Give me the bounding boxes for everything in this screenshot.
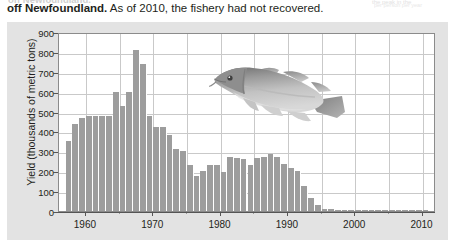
x-axis-tick-label: 1970 [132, 219, 172, 230]
bar [93, 116, 100, 211]
x-axis-tick-label: 1990 [267, 219, 307, 230]
bar [227, 157, 234, 211]
plot-area [58, 33, 435, 212]
bar [221, 172, 228, 211]
bar [295, 171, 302, 211]
bar [254, 158, 261, 211]
y-axis-tick-label: 800 [20, 47, 54, 58]
bar [180, 151, 187, 211]
bar [335, 210, 342, 211]
bar [72, 124, 79, 212]
bar [362, 210, 369, 211]
bar [214, 165, 221, 211]
bar [66, 141, 73, 211]
bar [133, 50, 140, 211]
bar [79, 118, 86, 211]
bar [140, 64, 147, 211]
bar [369, 210, 376, 211]
bar [281, 164, 288, 211]
x-axis-labels: 196019701980199020002010 [7, 212, 448, 240]
x-axis-tick-label: 2000 [334, 219, 374, 230]
bar [187, 165, 194, 211]
y-axis-tick-label: 600 [20, 87, 54, 98]
bar [322, 209, 329, 211]
bar [288, 168, 295, 211]
y-axis-tick-label: 300 [20, 147, 54, 158]
bar [248, 165, 255, 211]
bar [106, 116, 113, 211]
y-axis-tick-label: 500 [20, 107, 54, 118]
bar [402, 210, 409, 211]
bar [113, 92, 120, 211]
bar [167, 135, 174, 211]
bar [274, 157, 281, 211]
bar [308, 198, 315, 211]
x-axis-tick-label: 1960 [65, 219, 105, 230]
bar [234, 158, 241, 211]
bar [268, 154, 275, 211]
bar [99, 116, 106, 211]
bar [348, 210, 355, 211]
gridline-horizontal [59, 54, 434, 55]
gridline-vertical [389, 34, 390, 211]
bar [200, 171, 207, 211]
x-axis-line [58, 212, 435, 213]
caption-rest: As of 2010, the fishery had not recovere… [107, 2, 323, 14]
bar [126, 92, 133, 211]
bar [355, 210, 362, 211]
bar [173, 149, 180, 211]
y-axis-tick-label: 100 [20, 187, 54, 198]
bar [194, 176, 201, 211]
gridline-vertical [355, 34, 356, 211]
bar [120, 106, 127, 211]
y-axis-tick-label: 200 [20, 167, 54, 178]
bar [375, 210, 382, 211]
bar [241, 159, 248, 211]
bar [86, 116, 93, 211]
y-axis-tick-label: 700 [20, 67, 54, 78]
bar [423, 210, 430, 211]
y-axis-labels: 9008007006005004003002001000 [14, 22, 54, 240]
bar [342, 210, 349, 211]
chart-figure: Yield (thousands of metric tons) 9008007… [7, 22, 448, 240]
bar [207, 165, 214, 211]
bar [261, 157, 268, 211]
y-axis-tick-label: 900 [20, 28, 54, 39]
y-axis-tick-label: 400 [20, 127, 54, 138]
bar [315, 205, 322, 211]
figure-caption: off Newfoundland. As of 2010, the fisher… [7, 2, 377, 18]
bar [160, 127, 167, 211]
bar [328, 209, 335, 211]
bar [409, 210, 416, 211]
bar [153, 127, 160, 211]
atlantic-cod-fish-icon [209, 56, 349, 128]
bar [301, 186, 308, 211]
bar [147, 116, 154, 211]
x-axis-tick-label: 1980 [200, 219, 240, 230]
bar [389, 210, 396, 211]
bar [396, 210, 403, 211]
caption-ghost-right: per person per year [374, 3, 454, 15]
x-axis-tick-label: 2010 [402, 219, 442, 230]
bar [416, 210, 423, 211]
caption-bold-lead: off Newfoundland. [7, 2, 107, 14]
bar [382, 210, 389, 211]
gridline-vertical [423, 34, 424, 211]
